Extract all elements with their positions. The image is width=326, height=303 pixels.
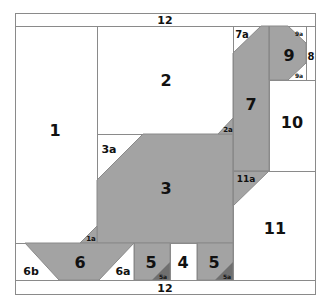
- label-piece-10: 10: [281, 113, 303, 132]
- label-piece-8: 8: [308, 51, 315, 62]
- label-piece-1a: 1a: [86, 235, 96, 243]
- label-piece-3: 3: [160, 179, 171, 198]
- label-piece-6a: 6a: [115, 265, 130, 278]
- label-piece-5-left: 5: [145, 253, 156, 272]
- label-piece-6b: 6b: [23, 265, 39, 278]
- label-top-strip: 12: [157, 14, 172, 27]
- label-piece-4: 4: [177, 253, 188, 272]
- label-piece-7: 7: [245, 95, 256, 114]
- label-piece-7a: 7a: [235, 29, 249, 40]
- label-piece-2a: 2a: [223, 126, 233, 134]
- label-piece-5a-left: 5a: [159, 273, 167, 280]
- label-bottom-strip: 12: [157, 282, 172, 295]
- label-piece-5a-right: 5a: [223, 273, 231, 280]
- label-piece-9: 9: [283, 46, 294, 65]
- label-piece-1: 1: [49, 121, 60, 140]
- quilt-block-diagram: 12 12 1 1a 2 2a 3 3a 4 5 5a 5 5a 6 6a 6b…: [0, 0, 326, 303]
- label-piece-2: 2: [160, 71, 171, 90]
- label-piece-9a-top: 9a: [295, 30, 303, 37]
- label-piece-6: 6: [74, 253, 85, 272]
- label-piece-11a: 11a: [237, 174, 256, 184]
- label-piece-9a-bottom: 9a: [295, 72, 303, 79]
- label-piece-5-right: 5: [208, 253, 219, 272]
- label-piece-11: 11: [264, 219, 286, 238]
- label-piece-3a: 3a: [101, 143, 116, 156]
